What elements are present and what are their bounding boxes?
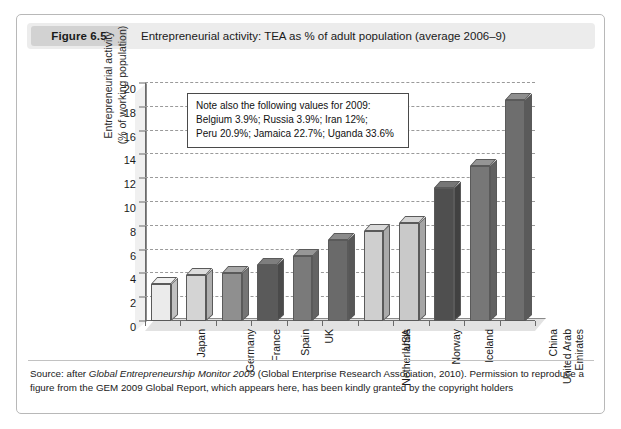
bar-front-face xyxy=(293,256,313,321)
x-tick-mark xyxy=(180,321,181,326)
x-tick-label: Iceland xyxy=(483,329,495,363)
y-axis-title-line1: Entrepreneurial activity xyxy=(102,32,114,139)
note-line-2: Belgium 3.9%; Russia 3.9%; Iran 12%; xyxy=(196,113,401,127)
note-line-3: Peru 20.9%; Jamaica 22.7%; Uganda 33.6% xyxy=(196,127,401,141)
bar-front-face xyxy=(257,265,277,321)
bar xyxy=(328,240,348,321)
chart-area: Entrepreneurial activity (% of working p… xyxy=(17,55,604,385)
bar-side-face xyxy=(242,267,249,321)
bar-side-face xyxy=(277,259,284,321)
x-tick-mark xyxy=(500,321,501,326)
source-divider xyxy=(28,360,594,361)
bar-side-face xyxy=(419,217,426,321)
bar xyxy=(505,100,525,321)
bar xyxy=(293,256,313,321)
bar-front-face xyxy=(151,284,171,321)
source-prefix: Source: after xyxy=(30,368,89,379)
bar-side-face xyxy=(490,160,497,321)
x-tick-label: UK xyxy=(322,329,334,344)
figure-caption: Entrepreneurial activity: TEA as % of ad… xyxy=(141,30,506,42)
bar-front-face xyxy=(434,188,454,321)
bar xyxy=(257,265,277,321)
bar-side-face xyxy=(383,224,390,321)
x-tick-mark xyxy=(251,321,252,326)
figure-page: Figure 6.5 Entrepreneurial activity: TEA… xyxy=(0,0,621,429)
bar-front-face xyxy=(328,240,348,321)
bar-side-face xyxy=(312,249,319,321)
bar-side-face xyxy=(348,234,355,321)
bar-front-face xyxy=(364,231,384,321)
bar xyxy=(222,273,242,321)
bar xyxy=(151,284,171,321)
x-tick-mark xyxy=(287,321,288,326)
bar-side-face xyxy=(206,268,213,321)
x-tick-mark xyxy=(464,321,465,326)
source-note: Source: after Global Entrepreneurship Mo… xyxy=(30,367,594,394)
source-title: Global Entrepreneurship Monitor 2009 xyxy=(89,368,255,379)
bar-front-face xyxy=(505,100,525,321)
bar-side-face xyxy=(454,181,461,321)
bar-front-face xyxy=(186,275,206,321)
x-tick-label: France xyxy=(269,329,281,362)
figure-panel: Figure 6.5 Entrepreneurial activity: TEA… xyxy=(16,14,605,414)
bar xyxy=(364,231,384,321)
x-tick-label: Japan xyxy=(194,329,206,358)
bar xyxy=(434,188,454,321)
x-tick-mark xyxy=(535,321,536,326)
bar-front-face xyxy=(222,273,242,321)
x-tick-mark xyxy=(393,321,394,326)
x-tick-label: China xyxy=(548,329,560,356)
bar xyxy=(470,166,490,321)
bar-side-face xyxy=(525,93,532,321)
bar xyxy=(399,223,419,321)
note-line-1: Note also the following values for 2009: xyxy=(196,99,401,113)
x-tick-mark xyxy=(429,321,430,326)
x-tick-label: Spain xyxy=(299,329,311,356)
bar-front-face xyxy=(470,166,490,321)
x-tick-mark xyxy=(358,321,359,326)
note-box: Note also the following values for 2009:… xyxy=(187,93,409,148)
x-tick-label: USA xyxy=(400,329,412,351)
bar xyxy=(186,275,206,321)
bar-front-face xyxy=(399,223,419,321)
x-tick-mark xyxy=(322,321,323,326)
x-tick-label: Germany xyxy=(244,329,256,372)
x-tick-mark xyxy=(216,321,217,326)
bar-side-face xyxy=(171,278,178,321)
x-tick-mark xyxy=(145,321,146,326)
